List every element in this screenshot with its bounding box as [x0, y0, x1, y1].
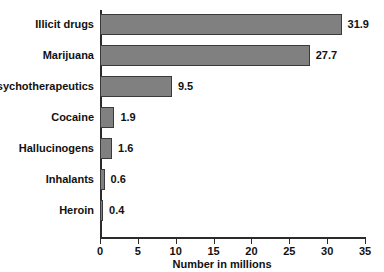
bar-value-illicit-drugs: 31.9: [348, 14, 369, 35]
bar-row: Marijuana27.7: [0, 41, 384, 72]
x-tick-15: [214, 239, 215, 244]
x-tick-20: [251, 239, 252, 244]
bar-row: Heroin0.4: [0, 196, 384, 227]
bar-row: Cocaine1.9: [0, 103, 384, 134]
bar-value-inhalants: 0.6: [111, 169, 126, 190]
x-tick-0: [100, 239, 101, 244]
x-tick-5: [138, 239, 139, 244]
bar-inhalants: [100, 169, 105, 190]
x-axis-line: [100, 237, 366, 239]
bar-row: Hallucinogens1.6: [0, 134, 384, 165]
category-label-marijuana: Marijuana: [43, 45, 94, 66]
bar-value-heroin: 0.4: [109, 200, 124, 221]
x-tick-10: [176, 239, 177, 244]
bar-row: Illicit drugs31.9: [0, 10, 384, 41]
x-tick-30: [327, 239, 328, 244]
bar-heroin: [100, 200, 103, 221]
bar-cocaine: [100, 107, 114, 128]
bar-row: Inhalants0.6: [0, 165, 384, 196]
bar-chart: Illicit drugs31.9Marijuana27.7Psychother…: [0, 0, 384, 272]
category-label-inhalants: Inhalants: [46, 169, 94, 190]
x-tick-label-30: 30: [312, 245, 342, 257]
x-tick-label-15: 15: [199, 245, 229, 257]
x-tick-label-25: 25: [274, 245, 304, 257]
category-label-psychotherapeutics: Psychotherapeutics: [0, 76, 94, 97]
x-axis-title: Number in millions: [172, 258, 271, 270]
category-label-illicit-drugs: Illicit drugs: [35, 14, 94, 35]
category-label-cocaine: Cocaine: [51, 107, 94, 128]
bar-value-marijuana: 27.7: [316, 45, 337, 66]
bar-value-cocaine: 1.9: [120, 107, 135, 128]
x-tick-35: [365, 239, 366, 244]
x-axis-title-wrap: Number in millions: [0, 258, 384, 270]
bar-value-psychotherapeutics: 9.5: [178, 76, 193, 97]
bar-marijuana: [100, 45, 310, 66]
bar-illicit-drugs: [100, 14, 342, 35]
bar-psychotherapeutics: [100, 76, 172, 97]
bar-row: Psychotherapeutics9.5: [0, 72, 384, 103]
x-tick-label-20: 20: [236, 245, 266, 257]
x-tick-label-0: 0: [85, 245, 115, 257]
x-tick-label-10: 10: [161, 245, 191, 257]
category-label-hallucinogens: Hallucinogens: [19, 138, 94, 159]
x-tick-25: [289, 239, 290, 244]
category-label-heroin: Heroin: [59, 200, 94, 221]
x-tick-label-5: 5: [123, 245, 153, 257]
x-tick-label-35: 35: [350, 245, 380, 257]
bar-hallucinogens: [100, 138, 112, 159]
bar-value-hallucinogens: 1.6: [118, 138, 133, 159]
